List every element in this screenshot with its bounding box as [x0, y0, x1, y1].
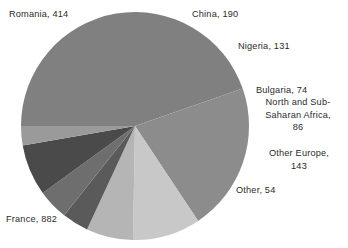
pie-chart-screenshot: Romania, 414 France, 882 China, 190 Nige…: [0, 0, 348, 248]
pie-label-nigeria: Nigeria, 131: [238, 40, 290, 53]
pie-label-north-and-sub-saharan-africa: North and Sub- Saharan Africa, 86: [252, 96, 344, 134]
pie-label-other-europe: Other Europe, 143: [254, 147, 344, 172]
pie-label-china: China, 190: [192, 8, 238, 21]
pie-label-france: France, 882: [6, 213, 57, 226]
pie-label-other: Other, 54: [236, 184, 275, 197]
pie-label-bulgaria: Bulgaria, 74: [256, 84, 307, 97]
pie-label-romania: Romania, 414: [9, 8, 68, 21]
